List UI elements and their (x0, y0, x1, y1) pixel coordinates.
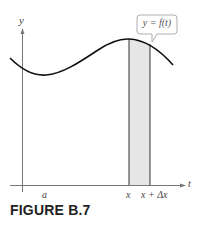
t-axis-label: t (188, 178, 191, 189)
y-axis-arrow-icon (21, 28, 25, 34)
tick-label-x: x (126, 189, 130, 200)
t-axis-arrow-icon (180, 184, 186, 188)
figure-caption: FIGURE B.7 (10, 202, 91, 218)
shaded-strip (129, 39, 150, 185)
tick-label-x-plus-dx: x + Δx (141, 189, 168, 200)
figure-diagram (0, 0, 199, 226)
tick-label-a: a (42, 189, 47, 200)
callout-label: y = f(t) (137, 17, 177, 28)
y-axis-label: y (19, 14, 24, 26)
